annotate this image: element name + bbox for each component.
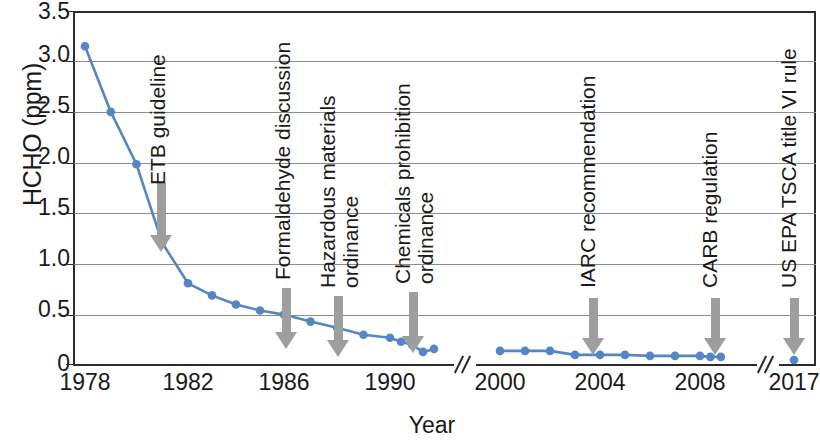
data-point bbox=[208, 291, 217, 300]
data-point bbox=[107, 108, 116, 117]
annotation-line: IARC recommendation bbox=[576, 76, 600, 288]
data-point bbox=[696, 352, 705, 361]
x-tick-label: 1990 bbox=[364, 371, 415, 394]
data-point bbox=[430, 345, 439, 354]
x-tick-label: 2004 bbox=[574, 371, 625, 394]
y-tick-label: 2.5 bbox=[12, 94, 70, 117]
data-point bbox=[496, 347, 505, 356]
data-point-markers bbox=[81, 42, 799, 364]
arrow-carb-regulation bbox=[704, 298, 726, 356]
annotation-line: ordinance bbox=[339, 196, 363, 288]
data-point bbox=[386, 334, 395, 343]
data-point bbox=[132, 160, 141, 169]
data-point bbox=[521, 347, 530, 356]
annotation-line: US EPA TSCA title VI rule bbox=[777, 48, 801, 288]
data-point bbox=[232, 300, 241, 309]
arrow-us-epa-tsca-title-vi-rule bbox=[783, 298, 805, 356]
data-point bbox=[646, 352, 655, 361]
y-tick-label: 2.0 bbox=[12, 145, 70, 168]
arrow-hazardous-materials-ordinance bbox=[327, 296, 349, 358]
data-point bbox=[256, 306, 265, 315]
y-tick-label: 3.5 bbox=[12, 0, 70, 23]
arrow-etb-guideline bbox=[150, 183, 172, 253]
data-point bbox=[546, 347, 555, 356]
annotation-line: ordinance bbox=[414, 192, 438, 284]
y-tick-label: 3.0 bbox=[12, 43, 70, 66]
y-tick-label: 1.0 bbox=[12, 247, 70, 270]
x-tick-label: 1986 bbox=[258, 371, 309, 394]
x-tick-label: 2008 bbox=[674, 371, 725, 394]
y-tick-label: 1.5 bbox=[12, 196, 70, 219]
line-segment-1978-1994 bbox=[85, 46, 434, 352]
arrow-iarc-recommendation bbox=[582, 298, 604, 356]
x-axis-title: Year bbox=[372, 412, 492, 439]
data-point bbox=[81, 42, 90, 51]
line-segment-2000-2010 bbox=[500, 351, 721, 357]
arrow-formaldehyde-discussion bbox=[275, 288, 297, 350]
data-point bbox=[671, 352, 680, 361]
x-tick-label: 2000 bbox=[474, 371, 525, 394]
data-point bbox=[571, 351, 580, 360]
data-point bbox=[621, 351, 630, 360]
y-tick-label: 0.5 bbox=[12, 298, 70, 321]
annotation-line: ETB guideline bbox=[146, 54, 170, 185]
data-point bbox=[359, 331, 368, 340]
annotation-line: CARB regulation bbox=[698, 132, 722, 288]
data-point bbox=[306, 317, 315, 326]
x-tick-label: 1978 bbox=[59, 371, 110, 394]
annotation-line: Chemicals prohibition bbox=[391, 83, 415, 284]
x-tick-label: 1982 bbox=[162, 371, 213, 394]
annotation-line: Formaldehyde discussion bbox=[271, 42, 295, 280]
data-point bbox=[790, 356, 799, 365]
data-point bbox=[184, 279, 193, 288]
arrow-chemicals-prohibition-ordinance bbox=[402, 292, 424, 354]
annotation-line: Hazardous materials bbox=[316, 95, 340, 288]
